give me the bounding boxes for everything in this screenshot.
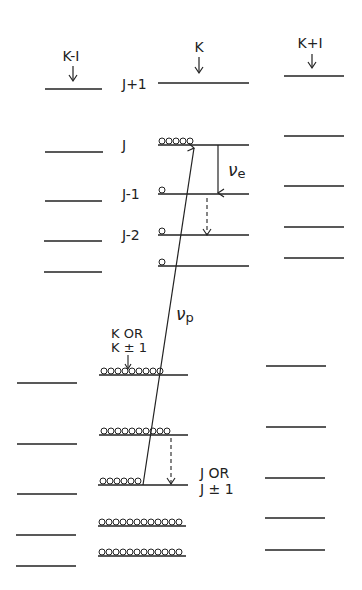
column-header-k: K [194, 39, 204, 73]
upper-levels-k-minus-1 [44, 89, 103, 272]
population-circle [159, 228, 165, 234]
energy-level-diagram: K-I K K+I J+1 J J-1 J-2 [0, 0, 362, 590]
population-circle [159, 259, 165, 265]
lower-levels-right [265, 366, 326, 550]
level-label-j-plus-1: J+1 [121, 76, 147, 92]
upper-levels-k-plus-1 [284, 76, 344, 258]
annotation-j-or: J OR [199, 465, 230, 481]
emission-transition: νe [218, 145, 246, 193]
population-circles-j [159, 138, 193, 144]
pump-label: νp [176, 304, 194, 325]
column-label-k-plus-1: K+I [297, 35, 322, 51]
annotation-k-or: K OR [111, 326, 143, 341]
j-or-j-pm-1-annotation: J OR J ± 1 [199, 465, 234, 497]
column-header-k-plus-1: K+I [297, 35, 322, 68]
level-label-j-minus-1: J-1 [121, 186, 140, 202]
k-or-k-pm-1-annotation: K OR K ± 1 [111, 326, 147, 369]
population-circles [101, 368, 163, 374]
population-circles [101, 428, 170, 434]
emission-label: νe [228, 160, 246, 181]
population-circle [159, 187, 165, 193]
annotation-k-pm-1: K ± 1 [111, 340, 147, 355]
column-label-k: K [194, 39, 204, 55]
lower-levels-left [16, 383, 77, 566]
level-label-j: J [121, 137, 126, 153]
level-label-j-minus-2: J-2 [121, 227, 140, 243]
column-label-k-minus-1: K-I [63, 48, 80, 64]
lower-levels-center [98, 368, 188, 556]
population-circles [99, 549, 182, 555]
population-circles [99, 519, 182, 525]
annotation-j-pm-1: J ± 1 [199, 481, 234, 497]
column-header-k-minus-1: K-I [63, 48, 80, 81]
population-circles [100, 478, 141, 484]
